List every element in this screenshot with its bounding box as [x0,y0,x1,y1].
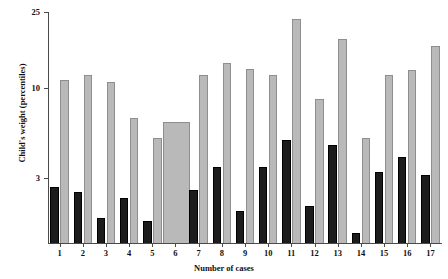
x-tick-mark [175,243,176,247]
x-tick-mark [315,243,316,247]
bar-light-3 [107,82,116,243]
x-tick-mark [222,243,223,247]
x-tick-label: 14 [351,248,371,258]
bar-dark-11 [282,140,291,243]
x-tick-label: 5 [142,248,162,258]
x-tick-mark [338,243,339,247]
x-tick-label: 6 [165,248,185,258]
x-tick-mark [199,243,200,247]
bar-light-8 [223,63,232,243]
x-axis-title: Number of cases [0,263,448,273]
plot-area [0,0,448,279]
bar-light-17 [431,46,440,243]
bar-light-2 [84,75,93,243]
x-tick-mark [361,243,362,247]
x-tick-label: 4 [119,248,139,258]
x-tick-mark [106,243,107,247]
bar-dark-7 [189,190,198,243]
bar-light-14 [362,138,371,243]
bar-dark-5 [143,221,152,243]
bar-light-16 [408,70,417,243]
bar-dark-13 [328,145,337,243]
x-tick-mark [268,243,269,247]
bar-light-15 [385,75,394,243]
x-tick-label: 9 [235,248,255,258]
x-tick-mark [407,243,408,247]
x-tick-label: 15 [374,248,394,258]
x-tick-label: 1 [50,248,70,258]
bar-dark-10 [259,167,268,243]
x-tick-mark [60,243,61,247]
bar-dark-12 [305,206,314,243]
bar-dark-14 [352,233,361,243]
x-tick-mark [430,243,431,247]
x-tick-mark [152,243,153,247]
x-tick-label: 16 [397,248,417,258]
x-tick-label: 8 [212,248,232,258]
bar-dark-9 [236,211,245,243]
x-tick-mark [83,243,84,247]
bar-dark-16 [398,157,407,243]
x-tick-label: 3 [96,248,116,258]
bar-dark-4 [120,198,129,243]
bar-light-9 [246,69,255,243]
x-tick-label: 17 [420,248,440,258]
bar-light-10 [269,75,278,243]
bar-light-1 [60,80,69,243]
bar-light-5 [153,138,162,243]
x-tick-label: 12 [305,248,325,258]
x-tick-label: 11 [281,248,301,258]
bar-dark-15 [375,172,384,243]
bar-light-12 [315,99,324,243]
bar-dark-17 [421,175,430,243]
bar-dark-1 [50,187,59,243]
x-tick-mark [245,243,246,247]
bar-light-13 [338,39,347,243]
x-tick-mark [384,243,385,247]
x-tick-label: 2 [73,248,93,258]
bar-light-7 [199,75,208,243]
bar-dark-8 [213,167,222,243]
x-tick-mark [129,243,130,247]
bar-dark-3 [97,218,106,243]
bar-dark-2 [74,192,83,243]
x-tick-label: 7 [189,248,209,258]
x-tick-label: 13 [328,248,348,258]
bar-light-11 [292,19,301,243]
x-tick-mark [291,243,292,247]
chart-figure: Child's weight (percentiles) 25103 12345… [0,0,448,279]
bar-light-6 [163,122,190,243]
x-tick-label: 10 [258,248,278,258]
bar-light-4 [130,118,139,243]
